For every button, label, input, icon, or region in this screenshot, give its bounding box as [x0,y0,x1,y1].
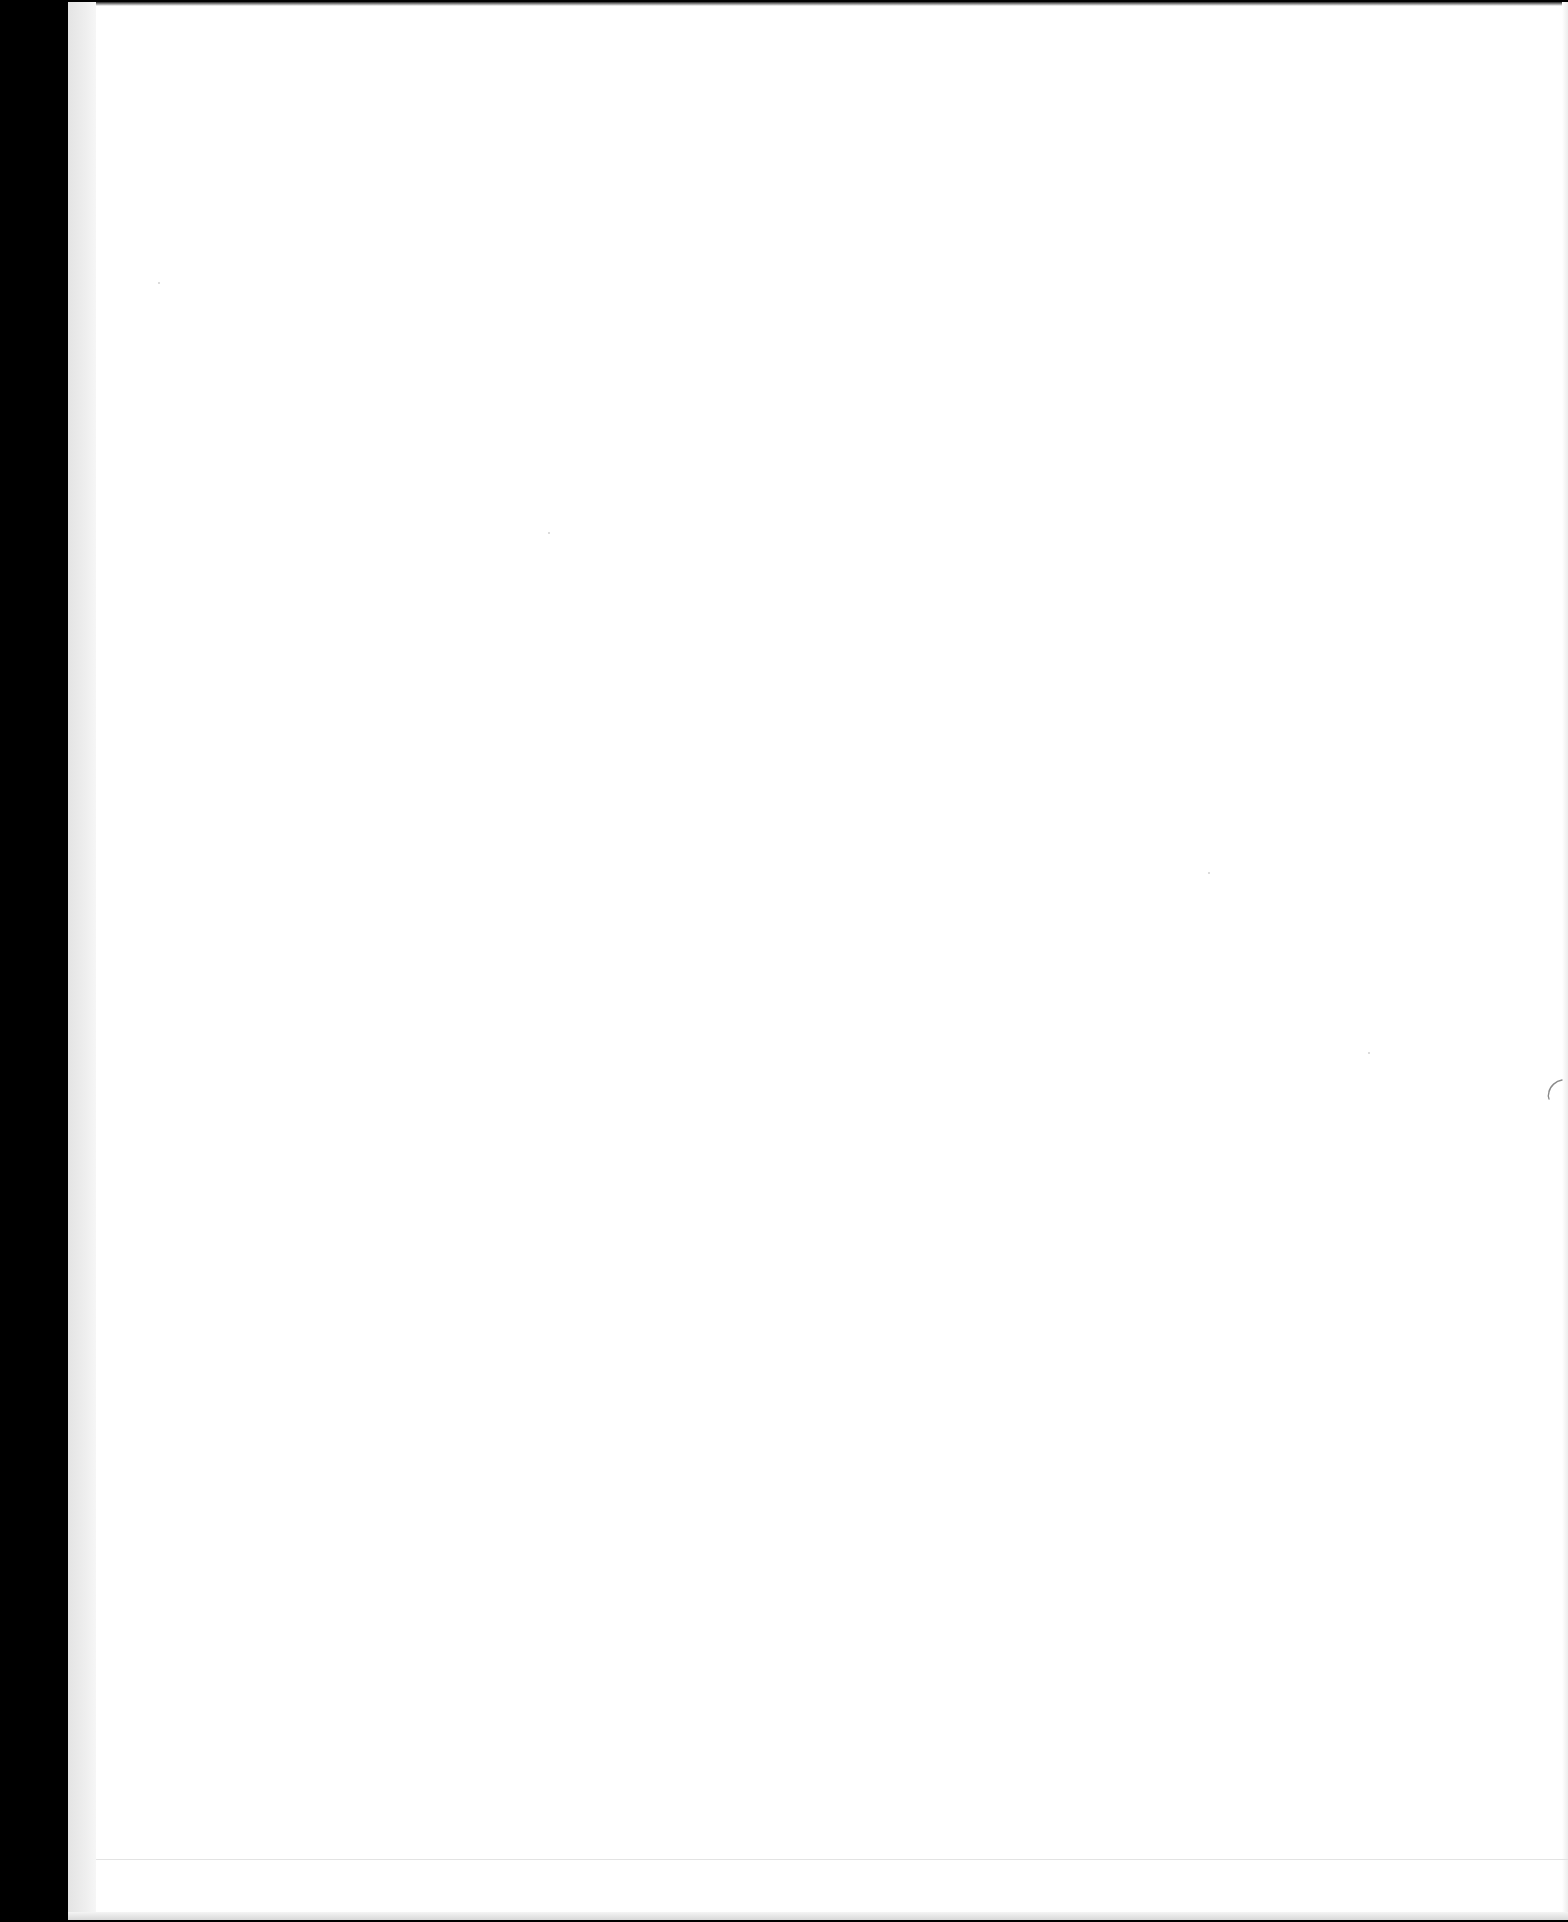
horizontal-rule-line [96,1859,1568,1860]
scan-speck [1208,872,1210,874]
scan-speck [548,532,550,534]
top-edge-shadow [68,2,1568,6]
spine-strip [68,2,96,1920]
bottom-edge-shadow [68,1912,1568,1920]
scan-speck [1368,1052,1370,1054]
right-page-edge [1562,2,1568,1920]
scan-speck [158,282,160,284]
blank-page [68,2,1568,1920]
scanned-document [0,0,1568,1922]
stray-pencil-mark-icon [1544,1078,1564,1102]
